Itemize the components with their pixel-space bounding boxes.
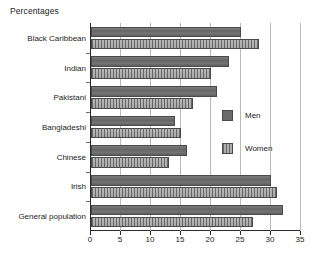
bar-women [91, 128, 181, 139]
legend-swatch-men-icon [222, 110, 233, 121]
y-tick [86, 82, 90, 83]
bar-men [91, 116, 175, 127]
chart-title: Percentages [10, 6, 59, 16]
category-label: General population [18, 212, 86, 221]
legend-swatch-women-icon [222, 143, 233, 154]
x-tick-label: 10 [146, 235, 155, 244]
legend-label-women: Women [245, 144, 272, 153]
category-label: Chinese [57, 152, 86, 161]
bar-women [91, 217, 253, 228]
y-tick [86, 172, 90, 173]
bar-men [91, 86, 217, 97]
bar-men [91, 27, 241, 38]
x-tick-label: 15 [176, 235, 185, 244]
bar-women [91, 98, 193, 109]
category-label: Bangladeshi [42, 123, 86, 132]
x-axis-line [90, 230, 300, 231]
legend-item-women: Women [222, 143, 302, 154]
x-tick-label: 5 [118, 235, 122, 244]
x-tick-label: 0 [88, 235, 92, 244]
y-tick [86, 53, 90, 54]
x-tick-label: 20 [206, 235, 215, 244]
bar-women [91, 39, 259, 50]
bar-women [91, 187, 277, 198]
x-tick-label: 25 [236, 235, 245, 244]
y-tick [86, 142, 90, 143]
x-tick-label: 30 [266, 235, 275, 244]
x-tick-label: 35 [296, 235, 305, 244]
bar-women [91, 157, 169, 168]
bar-women [91, 68, 211, 79]
category-label: Irish [71, 182, 86, 191]
bar-chart: Percentages 05101520253035 Black Caribbe… [0, 0, 310, 260]
gridline [210, 23, 211, 231]
bar-men [91, 205, 283, 216]
y-tick [86, 112, 90, 113]
bar-men [91, 145, 187, 156]
bar-men [91, 56, 229, 67]
y-tick [86, 201, 90, 202]
bar-men [91, 175, 271, 186]
chart-legend: Men Women [222, 110, 302, 176]
category-label: Pakistani [54, 93, 86, 102]
category-label: Black Caribbean [27, 33, 86, 42]
legend-label-men: Men [245, 111, 261, 120]
category-label: Indian [64, 63, 86, 72]
legend-item-men: Men [222, 110, 302, 121]
